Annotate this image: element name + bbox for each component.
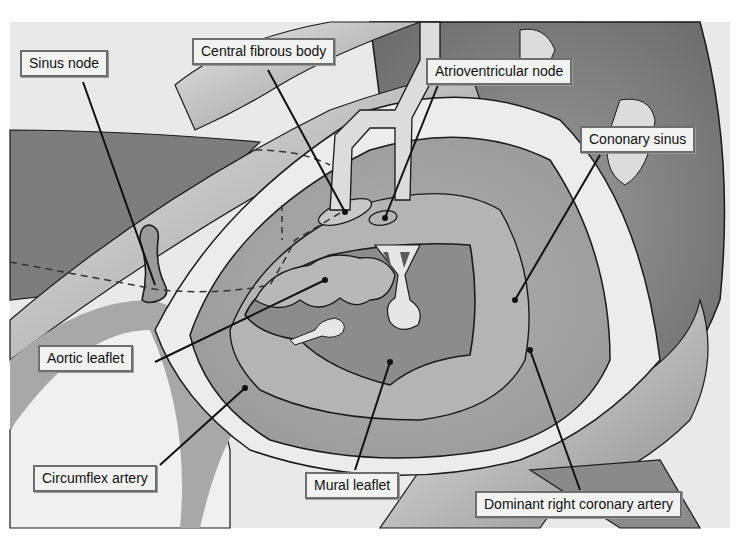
label-atrioventricular-node: Atrioventricular node <box>426 58 572 85</box>
label-aortic-leaflet: Aortic leaflet <box>38 345 133 372</box>
anatomical-illustration <box>0 0 750 545</box>
label-coronary-sinus: Cononary sinus <box>580 126 695 153</box>
label-dominant-right-coronary-artery: Dominant right coronary artery <box>475 491 682 518</box>
label-circumflex-artery: Circumflex artery <box>33 465 157 492</box>
label-central-fibrous-body: Central fibrous body <box>192 38 335 65</box>
label-mural-leaflet: Mural leaflet <box>305 472 399 499</box>
label-sinus-node: Sinus node <box>20 50 108 77</box>
